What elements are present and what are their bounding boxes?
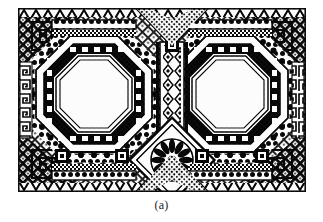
figure-caption: (a) — [0, 198, 323, 213]
ornament-plate-svg — [18, 8, 306, 192]
halftone-veil — [18, 8, 306, 192]
ornament-plate-image — [18, 8, 306, 192]
figure-container: (a) — [0, 0, 323, 222]
